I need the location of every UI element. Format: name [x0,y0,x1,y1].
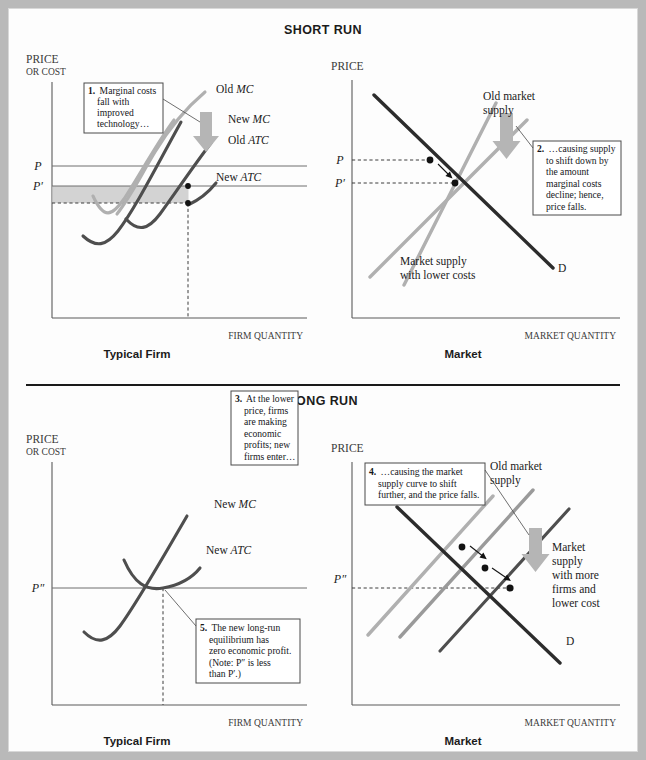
sr-firm-curve-new-atc-left [126,143,211,228]
sr-firm-label-old-atc: Old ATC [228,134,269,146]
lr-market-panel-title: Market [444,735,481,747]
sr-market-label-old-supply: Old market [483,90,536,102]
sr-market-label-new-supply-2: with lower costs [400,269,476,281]
lr-market-label-new-supply-2: supply [552,555,583,568]
section-short-run: SHORT RUN PRICE OR COST P P′ [26,23,621,360]
sr-firm-panel-title: Typical Firm [104,348,171,360]
sr-firm-label-new-atc: New ATC [216,171,262,183]
lr-market-shift-arrow-2 [492,568,508,579]
sr-market-x-axis-caption: MARKET QUANTITY [525,331,617,341]
sr-firm-y-axis-label-line1: PRICE [26,53,59,65]
callout-1: 1. Marginal costs fall with improved tec… [84,83,200,133]
lr-market-label-new-supply-3: with more [552,569,599,581]
panel-sr-firm: PRICE OR COST P P′ [26,53,307,360]
sr-firm-equilibrium-dot-lower [185,200,191,206]
lr-firm-panel-title: Typical Firm [104,735,171,747]
sr-firm-x-axis-caption: FIRM QUANTITY [228,331,303,341]
panel-lr-market: PRICE P″ Old market supply Marke [331,442,620,747]
lr-firm-price-tick-pdouble: P″ [31,581,45,595]
lr-firm-y-axis-label-line1: PRICE [26,433,59,445]
sr-market-label-old-supply-2: supply [483,104,514,117]
callout-3: 3. At the lower price, firms are making … [231,391,298,465]
sr-market-equilibrium-dot-old [427,157,434,164]
callout-2: 2. …causing supply to shift down by the … [516,126,621,215]
lr-market-label-demand: D [566,635,574,647]
lr-market-label-new-supply-1: Market [552,541,586,553]
sr-market-label-new-supply: Market supply [400,255,467,268]
section-title-long-run: LONG RUN [288,394,358,408]
sr-firm-label-old-mc: Old MC [216,83,254,95]
lr-market-y-axis-label: PRICE [331,442,364,454]
sr-firm-shift-arrow-icon [193,112,219,152]
lr-market-x-axis-caption: MARKET QUANTITY [525,718,617,728]
callout-2-leader [516,126,533,148]
panel-sr-market: PRICE P P′ Old market supply Market supp… [331,60,621,360]
lr-firm-label-new-mc: New MC [214,498,256,510]
sr-firm-price-tick-p: P [33,159,42,173]
lr-market-label-new-supply-5: lower cost [552,597,600,609]
callout-5: 5. The new long-run equilibrium has zero… [165,590,300,683]
sr-firm-y-axis-label-line2: OR COST [26,67,66,77]
lr-market-price-tick-pdouble: P″ [333,572,347,586]
sr-firm-price-tick-pprime: P′ [32,179,43,193]
lr-firm-curve-new-atc [124,560,200,589]
sr-market-y-axis-label: PRICE [331,60,364,72]
panel-lr-firm: PRICE OR COST P″ New MC New ATC 3. [26,391,307,747]
sr-firm-label-new-mc: New MC [228,113,270,125]
lr-firm-label-new-atc: New ATC [206,544,252,556]
sr-market-label-demand: D [558,262,566,274]
sr-market-equilibrium-dot-new [452,180,459,187]
lr-firm-x-axis-caption: FIRM QUANTITY [228,718,303,728]
sr-market-price-tick-pprime: P′ [334,176,345,190]
section-long-run: LONG RUN PRICE OR COST P″ New MC New ATC [26,391,620,747]
lr-firm-y-axis-label-line2: OR COST [26,447,66,457]
lr-market-label-old-supply-2: supply [490,474,521,487]
lr-market-equilibrium-dot-2 [482,565,489,572]
sr-firm-equilibrium-dot-upper [185,183,191,189]
sr-market-panel-title: Market [444,348,481,360]
lr-market-equilibrium-dot-3 [506,584,513,591]
sr-market-price-tick-p: P [335,153,344,167]
callout-5-leader [165,590,196,626]
lr-market-curve-new-supply [440,509,569,651]
lr-market-label-new-supply-4: firms and [552,583,596,595]
lr-market-label-old-supply: Old market [490,460,543,472]
lr-market-equilibrium-dot-1 [459,544,466,551]
section-title-short-run: SHORT RUN [284,23,362,37]
economics-figure: SHORT RUN PRICE OR COST P P′ [0,0,646,760]
